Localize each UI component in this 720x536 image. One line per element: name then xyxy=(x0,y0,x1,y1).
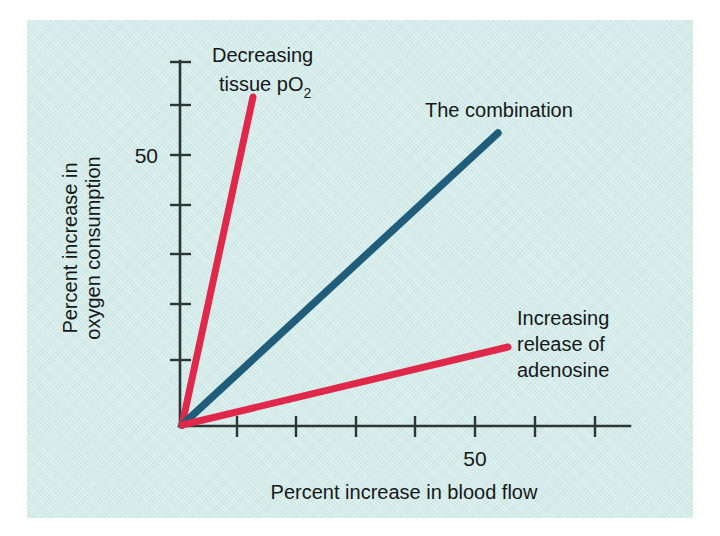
y-axis-title: Percent increase in oxygen consumption xyxy=(59,156,104,339)
annotation-decreasing-line1: Decreasing xyxy=(212,44,313,66)
y-tick-label-50: 50 xyxy=(135,144,158,167)
x-axis-title: Percent increase in blood flow xyxy=(271,481,538,503)
y-axis-title-line2: oxygen consumption xyxy=(82,156,104,339)
annotation-adenosine-line2: release of xyxy=(517,333,605,355)
chart-plot-area: 50 50 Percent increase in blood flow Per… xyxy=(0,0,720,536)
annotation-decreasing-line2-subscript: 2 xyxy=(303,85,311,101)
y-axis-title-line1: Percent increase in xyxy=(59,162,81,333)
annotation-adenosine-line3: adenosine xyxy=(517,359,609,381)
series-line-the-combination xyxy=(182,133,498,425)
annotation-the-combination: The combination xyxy=(425,99,573,121)
x-tick-label-50: 50 xyxy=(463,447,486,470)
annotation-increasing-release-adenosine: Increasing release of adenosine xyxy=(517,307,609,381)
annotation-decreasing-line2-text: tissue pO xyxy=(219,73,303,95)
series-line-increasing-release-adenosine xyxy=(182,347,508,425)
series-line-decreasing-tissue-po2 xyxy=(182,97,253,425)
annotation-decreasing-line2: tissue pO2 xyxy=(219,73,311,101)
annotation-decreasing-tissue-po2: Decreasing tissue pO2 xyxy=(212,44,313,101)
annotation-adenosine-line1: Increasing xyxy=(517,307,609,329)
figure-container: 50 50 Percent increase in blood flow Per… xyxy=(0,0,720,536)
